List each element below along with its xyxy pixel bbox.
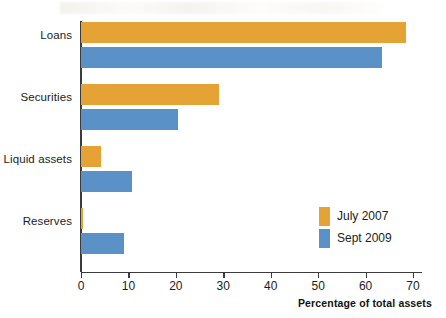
bar-securities-sept-2009 bbox=[81, 109, 178, 130]
bar-reserves-july-2007 bbox=[81, 208, 83, 229]
bar-liquid-assets-sept-2009 bbox=[81, 171, 132, 192]
x-tick-label: 30 bbox=[217, 280, 230, 292]
category-label: Liquid assets bbox=[4, 154, 72, 166]
bar-loans-sept-2009 bbox=[81, 47, 382, 68]
bar-liquid-assets-july-2007 bbox=[81, 146, 101, 167]
x-tick-label: 10 bbox=[122, 280, 135, 292]
x-tick-mark bbox=[128, 272, 129, 278]
x-tick-label: 0 bbox=[78, 280, 85, 292]
x-tick-mark bbox=[223, 272, 224, 278]
x-tick-mark bbox=[271, 272, 272, 278]
category-label: Securities bbox=[21, 92, 73, 104]
bar-loans-july-2007 bbox=[81, 22, 406, 43]
x-tick-label: 60 bbox=[359, 280, 372, 292]
category-label: Reserves bbox=[23, 216, 72, 228]
x-axis-ticks: 010203040506070 bbox=[81, 272, 413, 298]
legend-swatch-icon bbox=[319, 229, 330, 248]
page-bleed-through bbox=[60, 2, 380, 14]
x-tick-mark bbox=[318, 272, 319, 278]
x-tick-label: 40 bbox=[264, 280, 277, 292]
category-label: Loans bbox=[40, 30, 72, 42]
category-group: Loans bbox=[81, 22, 413, 68]
x-tick-label: 20 bbox=[169, 280, 182, 292]
x-tick-label: 50 bbox=[311, 280, 324, 292]
legend-label: July 2007 bbox=[337, 210, 388, 222]
category-group: Securities bbox=[81, 84, 413, 130]
legend-label: Sept 2009 bbox=[337, 232, 392, 244]
bar-reserves-sept-2009 bbox=[81, 233, 124, 254]
bar-securities-july-2007 bbox=[81, 84, 219, 105]
bar-chart-figure: LoansSecuritiesLiquid assetsReserves 010… bbox=[0, 0, 446, 318]
x-tick-mark bbox=[81, 272, 82, 278]
x-tick-mark bbox=[176, 272, 177, 278]
x-tick-mark bbox=[366, 272, 367, 278]
x-tick-label: 70 bbox=[406, 280, 419, 292]
category-group: Liquid assets bbox=[81, 146, 413, 192]
legend-swatch-icon bbox=[319, 207, 330, 226]
x-tick-mark bbox=[413, 272, 414, 278]
x-axis-title: Percentage of total assets bbox=[298, 297, 432, 309]
